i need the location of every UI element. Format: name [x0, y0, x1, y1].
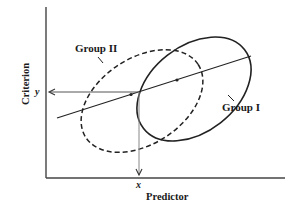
- group-i-label: Group I: [222, 101, 260, 113]
- group-ii-label: Group II: [75, 42, 117, 54]
- group-i-ellipse: [117, 16, 271, 163]
- diagram-canvas: Group II Group I y x Predictor Criterion: [0, 0, 300, 211]
- y-axis-title: Criterion: [20, 63, 31, 105]
- group-i-mean-point: [175, 78, 178, 81]
- y-value-label: y: [34, 86, 40, 97]
- x-value-label: x: [135, 179, 141, 190]
- x-axis-title: Predictor: [146, 191, 189, 202]
- group-ii-leader: [98, 57, 103, 63]
- group-ii-mean-point: [129, 93, 132, 96]
